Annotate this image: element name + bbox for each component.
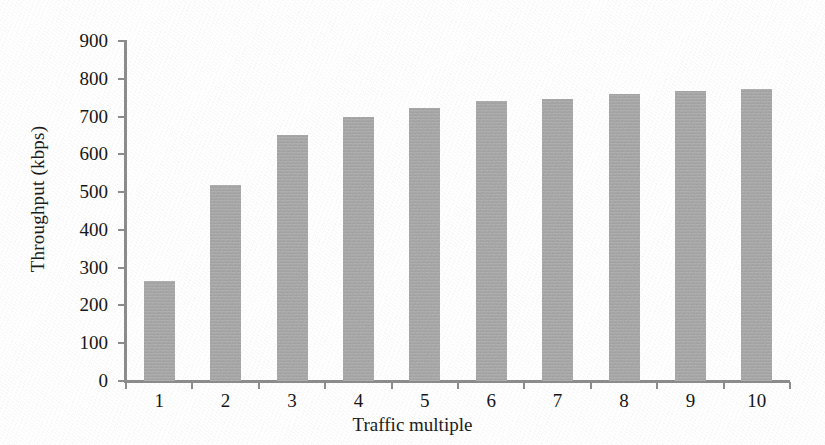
x-tick-label: 1 [129, 390, 189, 412]
x-tick-label: 8 [594, 390, 654, 412]
bar [210, 185, 241, 381]
y-tick-mark [118, 116, 125, 118]
x-tick-mark [391, 382, 393, 389]
y-tick-mark [118, 153, 125, 155]
x-tick-label: 4 [328, 390, 388, 412]
y-tick-mark [118, 304, 125, 306]
x-tick-label: 3 [262, 390, 322, 412]
y-tick-mark [118, 229, 125, 231]
y-tick-mark [118, 191, 125, 193]
y-tick-label: 300 [56, 258, 108, 277]
y-tick-label: 700 [56, 107, 108, 126]
x-tick-label: 2 [196, 390, 256, 412]
x-tick-mark [523, 382, 525, 389]
x-tick-label: 10 [727, 390, 787, 412]
y-tick-label-text: 300 [56, 258, 108, 277]
bar [542, 99, 573, 381]
y-tick-label: 400 [56, 220, 108, 239]
x-tick-label: 9 [660, 390, 720, 412]
y-tick-label-text: 0 [56, 371, 108, 390]
x-tick-mark [125, 382, 127, 389]
x-tick-mark [723, 382, 725, 389]
y-tick-label: 100 [56, 333, 108, 352]
bar [609, 94, 640, 381]
x-tick-mark [457, 382, 459, 389]
bar [409, 108, 440, 381]
x-tick-mark [590, 382, 592, 389]
y-tick-label-text: 700 [56, 107, 108, 126]
bar [343, 117, 374, 381]
bar [277, 135, 308, 381]
y-tick-label-text: 200 [56, 295, 108, 314]
y-tick-label: 200 [56, 295, 108, 314]
y-tick-label-text: 600 [56, 144, 108, 163]
plot-area [126, 41, 790, 381]
y-tick-label-text: 500 [56, 182, 108, 201]
x-tick-mark [191, 382, 193, 389]
y-tick-label-text: 800 [56, 69, 108, 88]
y-tick-label: 800 [56, 69, 108, 88]
y-tick-mark [118, 267, 125, 269]
x-axis-title: Traffic multiple [0, 414, 825, 436]
bar [675, 91, 706, 381]
y-tick-label: 0 [56, 371, 108, 390]
bar [144, 281, 175, 381]
y-tick-mark [118, 342, 125, 344]
y-tick-label-text: 900 [56, 31, 108, 50]
y-tick-label: 600 [56, 144, 108, 163]
x-tick-mark [324, 382, 326, 389]
x-tick-label: 6 [461, 390, 521, 412]
x-tick-mark [258, 382, 260, 389]
x-tick-label: 7 [528, 390, 588, 412]
x-tick-label: 5 [395, 390, 455, 412]
bar [476, 101, 507, 381]
x-tick-mark [656, 382, 658, 389]
bar-chart: Throughput (kbps) 0100200300400500600700… [0, 0, 825, 445]
x-tick-mark [789, 382, 791, 389]
y-tick-label-text: 100 [56, 333, 108, 352]
y-tick-label-text: 400 [56, 220, 108, 239]
bar [741, 89, 772, 381]
y-tick-label: 500 [56, 182, 108, 201]
y-tick-mark [118, 380, 125, 382]
y-axis-title: Throughput (kbps) [27, 49, 49, 349]
y-tick-mark [118, 40, 125, 42]
y-tick-mark [118, 78, 125, 80]
y-tick-label: 900 [56, 31, 108, 50]
